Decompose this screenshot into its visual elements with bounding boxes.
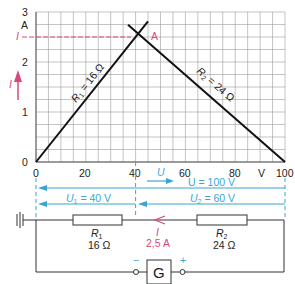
u2-label: U2 = 60 V <box>190 192 235 205</box>
r2-value: 24 Ω <box>213 239 236 251</box>
r1-value: 16 Ω <box>88 239 111 251</box>
voltage-axis-label: U <box>157 166 165 178</box>
diagram-canvas: 3 2 1 0 A 0 20 40 60 80 V 100 I A I R1 =… <box>0 0 295 284</box>
terminal-plus <box>180 270 185 275</box>
ground-icon <box>17 212 36 228</box>
x-tick-40: 40 <box>129 167 141 179</box>
terminal-minus <box>134 270 139 275</box>
x-unit-label: V <box>258 167 265 179</box>
y-unit-label: A <box>21 19 28 31</box>
total-voltage-arrow-icon <box>38 185 47 191</box>
u1-arrow-icon <box>38 201 47 207</box>
r1-line <box>36 21 148 162</box>
voltage-axis-arrow-icon <box>166 178 174 184</box>
x-tick-20: 20 <box>79 167 91 179</box>
u2-arrow-icon <box>138 201 147 207</box>
current-axis-label: I <box>9 78 12 90</box>
chart-grid <box>36 12 285 162</box>
intersection-label: A <box>151 30 158 42</box>
circuit-current-value: 2,5 A <box>146 237 170 249</box>
y-tick-2: 2 <box>22 56 28 68</box>
r2-line <box>128 25 285 162</box>
resistor-r1 <box>73 215 122 225</box>
u1-label: U1 = 40 V <box>66 192 111 205</box>
minus-sign: − <box>133 254 139 266</box>
y-tick-1: 1 <box>22 106 28 118</box>
y-tick-0: 0 <box>22 156 28 168</box>
current-axis-arrow-icon <box>14 70 22 82</box>
current-marker-label: I <box>16 30 19 42</box>
total-voltage-label: U = 100 V <box>188 176 235 188</box>
generator-label: G <box>153 264 165 281</box>
y-tick-3: 3 <box>22 6 28 18</box>
r2-line-label: R2 = 24 Ω <box>194 64 237 104</box>
resistor-r2 <box>197 215 247 225</box>
x-tick-0: 0 <box>33 167 39 179</box>
plus-sign: + <box>180 254 186 266</box>
x-tick-100: 100 <box>276 167 294 179</box>
